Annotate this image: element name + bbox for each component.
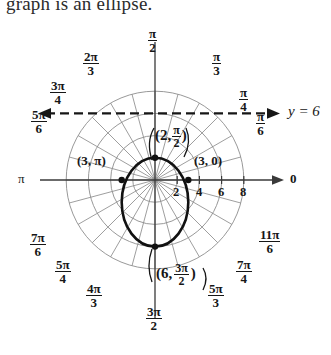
angle-label-pi: π — [18, 172, 25, 185]
point-label-3-0: (3, 0) — [194, 154, 222, 167]
directrix-equation-label: y = 6 — [288, 104, 320, 119]
directrix-arrow-right — [267, 108, 280, 119]
angle-label-4pi-over-3: 4π 3 — [86, 282, 102, 310]
point-label-3-pi: (3, π) — [77, 154, 106, 167]
angle-label-11pi-over-6: 11π 6 — [259, 228, 280, 256]
leader-bottom-left — [149, 249, 152, 282]
point-label-6-fraction: 3π2 — [174, 262, 189, 287]
radial-tick-4: 4 — [196, 186, 202, 199]
angle-label-5pi-over-6: 5π 6 — [31, 108, 47, 136]
point-label-6-suffix: ) — [191, 265, 196, 281]
angle-label-pi-over-4: π 4 — [239, 86, 248, 114]
angle-label-7pi-over-6: 7π 6 — [30, 231, 46, 259]
point-2-pi-over-2 — [152, 155, 158, 161]
radial-tick-2: 2 — [173, 186, 179, 199]
point-label-6-prefix: (6, — [156, 265, 172, 281]
angle-label-pi-over-6: π 6 — [256, 110, 265, 138]
spoke-210 — [78, 180, 155, 224]
angle-label-3pi-over-4: 3π 4 — [50, 79, 66, 107]
radial-tick-8: 8 — [240, 186, 246, 199]
point-label-2-fraction: π2 — [172, 124, 181, 149]
point-label-2-suffix: ) — [182, 127, 187, 143]
point-6-3pi-over-2 — [152, 243, 158, 249]
spoke-135 — [92, 117, 155, 180]
spoke-195 — [69, 180, 155, 203]
point-label-2-prefix: (2, — [155, 127, 171, 143]
polar-plot-svg — [0, 0, 331, 355]
angle-label-5pi-over-3: 5π 3 — [208, 282, 224, 310]
point-label-6-3pi-over-2: (6,3π2) — [156, 262, 196, 287]
angle-label-pi-over-3: π 3 — [212, 50, 221, 78]
angle-label-5pi-over-4: 5π 4 — [55, 258, 71, 286]
leader-bottom-right — [203, 268, 206, 290]
angle-label-pi-over-2: π 2 — [148, 27, 157, 55]
polar-axis-arrow-right — [272, 175, 284, 185]
point-label-2-pi-over-2: (2,π2) — [155, 124, 187, 149]
point-3-pi — [119, 177, 125, 183]
spoke-255 — [132, 180, 155, 266]
angle-label-7pi-over-4: 7π 4 — [236, 258, 252, 286]
angle-label-zero: 0 — [290, 172, 297, 185]
radial-tick-6: 6 — [218, 186, 224, 199]
polar-graph-figure: graph is an ellipse. — [0, 0, 331, 355]
point-3-0 — [185, 177, 191, 183]
angle-label-2pi-over-3: 2π 3 — [83, 50, 99, 78]
angle-label-3pi-over-2: 3π 2 — [146, 305, 162, 333]
